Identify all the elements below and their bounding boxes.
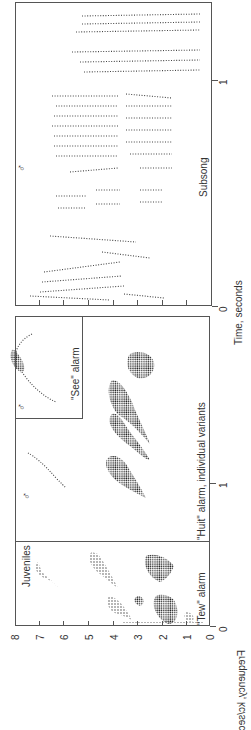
freq-axis-tick xyxy=(39,621,40,626)
freq-label-8: 8 xyxy=(10,634,21,640)
tew-alarm-caption: "Tew" alarm xyxy=(196,572,207,625)
time-tick-0-left xyxy=(210,626,216,627)
time-label-0-right: 0 xyxy=(218,306,229,312)
see-alarm-caption: "See" alarm xyxy=(70,347,81,400)
huit-alarm-caption: "Huit" alarm, individual variants xyxy=(196,402,207,540)
freq-axis-tick xyxy=(113,621,114,626)
time-label-1-left: 1 xyxy=(218,482,229,488)
juveniles-divider xyxy=(15,541,210,542)
freq-label-3: 3 xyxy=(133,634,144,640)
freq-axis-tick xyxy=(162,621,163,626)
time-label-0-left: 0 xyxy=(218,626,229,632)
freq-tick xyxy=(137,300,138,306)
time-tick-1-left xyxy=(210,483,216,484)
freq-tick xyxy=(113,300,114,306)
frequency-axis-title: Frequency, kc/sec xyxy=(236,650,247,730)
male-symbol-huit: ♂ xyxy=(20,492,32,500)
freq-tick xyxy=(162,300,163,306)
freq-axis-tick xyxy=(186,621,187,626)
male-symbol-subsong: ♂ xyxy=(15,164,27,172)
freq-axis-tick xyxy=(63,621,64,626)
freq-label-5: 5 xyxy=(84,634,95,640)
freq-tick xyxy=(39,300,40,306)
freq-tick xyxy=(88,300,89,306)
juveniles-title: Juveniles xyxy=(21,545,32,587)
freq-axis-tick xyxy=(137,621,138,626)
freq-tick xyxy=(186,300,187,306)
freq-tick xyxy=(63,300,64,306)
freq-label-4: 4 xyxy=(109,634,120,640)
freq-axis-tick xyxy=(88,621,89,626)
subsong-caption: Subsong xyxy=(198,158,209,197)
freq-label-6: 6 xyxy=(59,634,70,640)
subsong-panel-frame xyxy=(15,2,212,306)
time-label-1-right: 1 xyxy=(218,79,229,85)
freq-label-1: 1 xyxy=(182,634,193,640)
freq-label-0: 0 xyxy=(205,634,216,640)
male-symbol-see: ♂ xyxy=(15,403,27,411)
freq-label-7: 7 xyxy=(35,634,46,640)
freq-label-2: 2 xyxy=(158,634,169,640)
time-axis-title: Time, seconds xyxy=(233,280,244,345)
